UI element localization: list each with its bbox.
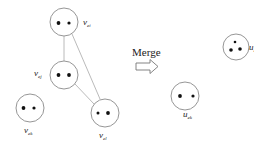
edge-middle-bottom-right bbox=[75, 84, 94, 104]
node-middle: vej bbox=[34, 61, 78, 89]
edge-top-bottom-right bbox=[72, 34, 100, 99]
node-merged-top: uei bbox=[223, 34, 254, 60]
svg-text:uek: uek bbox=[183, 109, 193, 120]
node-bottom-left: vek bbox=[16, 94, 44, 136]
node-top: vei bbox=[50, 8, 91, 36]
merge-label: Merge bbox=[132, 46, 161, 58]
merge-diagram: vei vej vek vel Merge uei uek bbox=[0, 0, 254, 145]
svg-text:vei: vei bbox=[83, 17, 91, 28]
svg-text:vel: vel bbox=[99, 130, 107, 141]
svg-text:vek: vek bbox=[24, 125, 33, 136]
svg-text:vej: vej bbox=[34, 68, 42, 79]
right-arrow-icon bbox=[136, 60, 158, 74]
svg-text:uei: uei bbox=[249, 42, 254, 53]
node-bottom-right: vel bbox=[91, 99, 119, 141]
node-merged-bottom: uek bbox=[171, 82, 199, 120]
